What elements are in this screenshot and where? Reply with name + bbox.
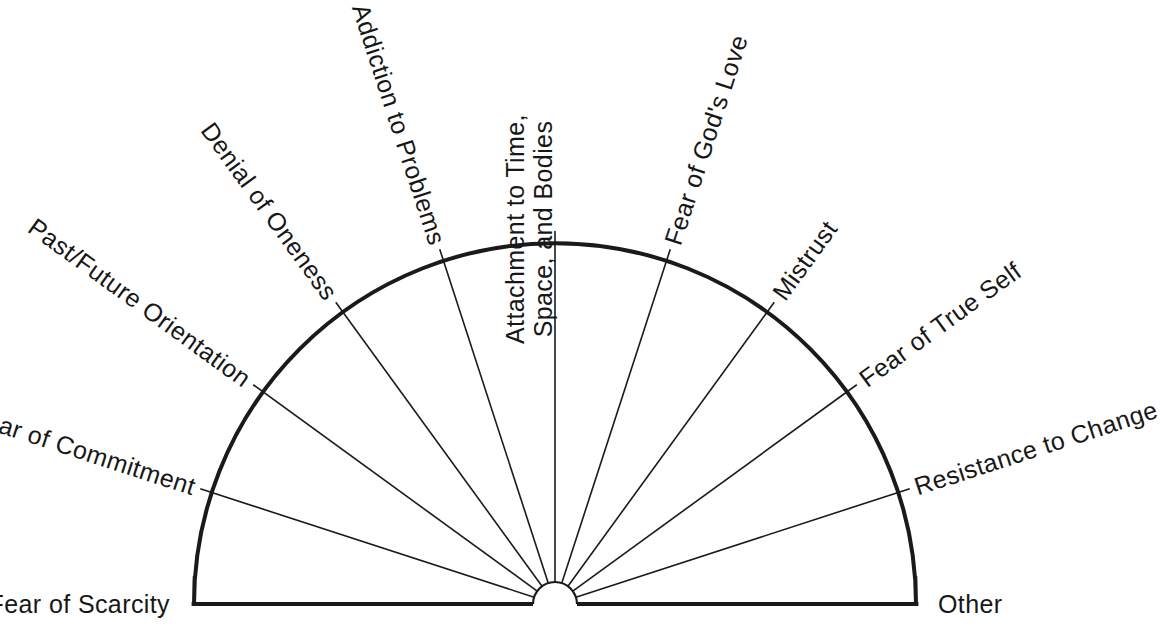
spoke-label-attachment-to-time-space-and-bodies: Attachment to Time,Space, and Bodies <box>501 114 557 344</box>
spoke-label-other: Other <box>938 590 1003 618</box>
spoke-label-fear-of-scarcity: Fear of Scarcity <box>0 590 170 618</box>
center-hub-arc <box>533 582 577 604</box>
